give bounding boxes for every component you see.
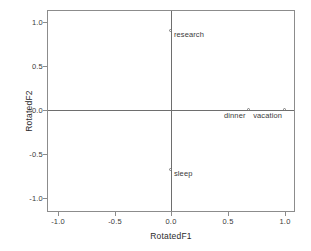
y-tick-label: -0.5 <box>29 150 43 159</box>
y-axis-title: RotatedF2 <box>24 90 34 132</box>
point-marker-icon <box>169 29 172 32</box>
x-tick-label: 1.0 <box>279 217 290 226</box>
y-tick-mark <box>43 198 47 199</box>
x-tick-label: -1.0 <box>51 217 65 226</box>
point-marker-icon <box>169 168 172 171</box>
y-tick-mark <box>43 154 47 155</box>
y-tick-mark <box>43 110 47 111</box>
x-tick-mark <box>285 212 286 216</box>
x-tick-label: -0.5 <box>108 217 122 226</box>
point-marker-icon <box>247 108 250 111</box>
data-point-label: vacation <box>253 111 282 120</box>
data-point-label: dinner <box>224 111 245 120</box>
x-tick-mark <box>58 212 59 216</box>
y-tick-label: 0.5 <box>32 62 43 71</box>
x-tick-mark <box>171 212 172 216</box>
x-tick-label: 0.5 <box>222 217 233 226</box>
x-axis-title: RotatedF1 <box>150 231 192 241</box>
x-tick-label: 0.0 <box>165 217 176 226</box>
data-point-label: sleep <box>174 169 192 178</box>
x-tick-mark <box>115 212 116 216</box>
data-point-label: research <box>174 30 204 39</box>
point-marker-icon <box>283 108 286 111</box>
y-tick-mark <box>43 22 47 23</box>
y-tick-mark <box>43 66 47 67</box>
vertical-zero-reference-line <box>171 11 172 211</box>
y-tick-label: -1.0 <box>29 194 43 203</box>
y-tick-label: 1.0 <box>32 18 43 27</box>
scatter-plot-figure: researchdinnervacationsleep -1.0 -0.5 0.… <box>0 0 311 251</box>
x-tick-mark <box>228 212 229 216</box>
plot-area: researchdinnervacationsleep <box>47 10 295 212</box>
